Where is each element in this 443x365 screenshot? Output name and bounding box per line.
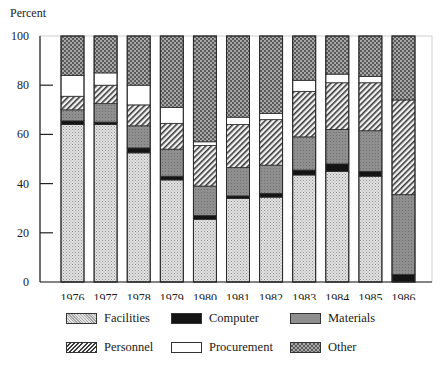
segment-other [293, 36, 316, 80]
segment-computer [359, 171, 382, 176]
bar-1979 [160, 36, 183, 282]
legend-item-computer: Computer [171, 312, 259, 324]
segment-personnel [260, 120, 283, 166]
x-tick-label: 1979 [160, 291, 184, 300]
segment-other [193, 36, 216, 142]
legend-swatch-personnel [66, 342, 97, 353]
bar-1976 [61, 36, 84, 282]
segment-other [94, 36, 117, 73]
segment-other [61, 36, 84, 75]
bar-1980 [193, 36, 216, 282]
x-tick-label: 1981 [226, 291, 250, 300]
legend-label: Other [328, 340, 356, 355]
legend-item-procurement: Procurement [171, 341, 273, 353]
segment-procurement [227, 117, 250, 124]
segment-other [127, 36, 150, 85]
legend-swatch-facilities [66, 313, 97, 324]
segment-materials [260, 165, 283, 193]
segment-facilities [127, 153, 150, 282]
segment-computer [260, 193, 283, 197]
segment-facilities [227, 198, 250, 282]
legend-label: Personnel [104, 340, 153, 355]
bar-1984 [326, 36, 349, 282]
segment-materials [326, 129, 349, 163]
segment-other [326, 36, 349, 74]
segment-materials [227, 168, 250, 196]
segment-personnel [392, 100, 415, 195]
segment-other [227, 36, 250, 117]
x-tick-label: 1986 [392, 291, 416, 300]
segment-procurement [160, 107, 183, 123]
y-tick-label: 20 [17, 226, 29, 240]
x-tick-label: 1976 [61, 291, 85, 300]
segment-facilities [359, 176, 382, 282]
x-tick-label: 1982 [259, 291, 283, 300]
segment-materials [392, 195, 415, 275]
segment-computer [61, 121, 84, 125]
segment-computer [326, 164, 349, 171]
segment-procurement [260, 113, 283, 119]
segment-facilities [160, 180, 183, 282]
legend-swatch-computer [171, 313, 202, 324]
segment-procurement [127, 85, 150, 105]
bar-1981 [227, 36, 250, 282]
legend-swatch-procurement [171, 342, 202, 353]
segment-facilities [293, 175, 316, 282]
segment-personnel [94, 85, 117, 103]
segment-materials [160, 149, 183, 176]
segment-computer [127, 148, 150, 153]
segment-computer [193, 216, 216, 220]
bar-1977 [94, 36, 117, 282]
y-tick-label: 80 [17, 78, 29, 92]
segment-computer [293, 170, 316, 175]
x-tick-label: 1980 [193, 291, 217, 300]
y-tick-label: 0 [23, 275, 29, 289]
x-tick-label: 1983 [292, 291, 316, 300]
legend-item-other: Other [290, 341, 356, 353]
legend-label: Facilities [104, 311, 150, 326]
bar-1982 [260, 36, 283, 282]
x-tick-label: 1984 [325, 291, 349, 300]
segment-materials [293, 137, 316, 170]
legend-swatch-materials [290, 313, 321, 324]
segment-procurement [193, 142, 216, 146]
legend-item-materials: Materials [290, 312, 375, 324]
segment-materials [359, 131, 382, 172]
segment-personnel [293, 91, 316, 137]
segment-personnel [359, 83, 382, 131]
segment-materials [94, 104, 117, 122]
segment-facilities [260, 197, 283, 282]
segment-personnel [61, 96, 84, 110]
segment-materials [61, 110, 84, 121]
segment-facilities [94, 125, 117, 282]
segment-procurement [293, 80, 316, 91]
x-tick-label: 1978 [127, 291, 151, 300]
legend-item-personnel: Personnel [66, 341, 153, 353]
segment-personnel [227, 125, 250, 168]
segment-personnel [127, 105, 150, 126]
bars-group: 1976197719781979198019811982198319841985… [61, 36, 416, 300]
y-tick-label: 40 [17, 177, 29, 191]
bar-1983 [293, 36, 316, 282]
legend-label: Procurement [209, 340, 273, 355]
segment-procurement [94, 73, 117, 85]
segment-procurement [359, 77, 382, 83]
segment-facilities [193, 219, 216, 282]
bar-1986 [392, 36, 415, 282]
bar-1985 [359, 36, 382, 282]
segment-other [359, 36, 382, 77]
segment-other [160, 36, 183, 107]
y-tick-label: 100 [11, 29, 29, 43]
segment-personnel [326, 83, 349, 130]
segment-computer [160, 176, 183, 180]
segment-personnel [193, 145, 216, 186]
segment-facilities [61, 125, 84, 282]
segment-other [260, 36, 283, 113]
segment-materials [193, 186, 216, 216]
x-tick-label: 1977 [94, 291, 118, 300]
segment-materials [127, 126, 150, 148]
legend-item-facilities: Facilities [66, 312, 150, 324]
segment-other [392, 36, 415, 100]
x-tick-label: 1985 [358, 291, 382, 300]
stacked-bar-chart: 1976197719781979198019811982198319841985… [0, 0, 443, 300]
